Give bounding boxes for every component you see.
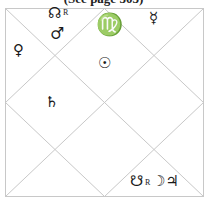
mars-icon: ♂	[50, 26, 64, 42]
saturn-icon: ♄	[45, 95, 58, 110]
sun-icon: ☉	[98, 56, 111, 71]
jupiter-icon: ♃	[165, 172, 178, 190]
house-top-left-upper: ☊R	[48, 6, 68, 21]
venus-icon: ♀	[13, 43, 24, 58]
house-bottom-right: ☋R☽♃	[130, 174, 179, 189]
moon-icon: ☽	[152, 172, 165, 190]
mercury-icon: ☿	[149, 11, 158, 26]
north-node-icon: ☊	[48, 4, 61, 22]
south-node-icon: ☋	[130, 172, 143, 190]
virgo-sign-icon: ♍	[96, 14, 123, 36]
retrograde-marker: R	[145, 178, 150, 187]
retrograde-marker: R	[63, 8, 68, 17]
